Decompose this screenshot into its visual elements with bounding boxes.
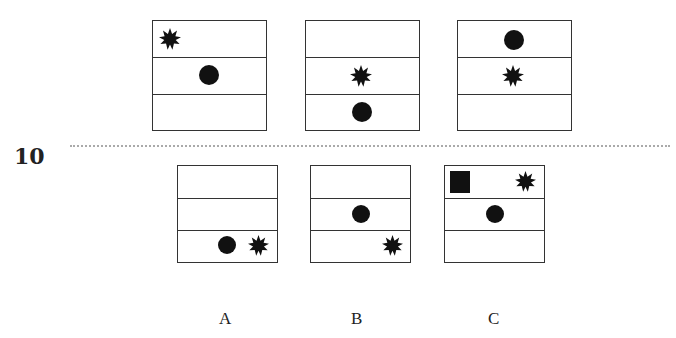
circle-icon [199, 65, 219, 85]
row-divider [306, 94, 419, 95]
row-divider [311, 198, 410, 199]
sequence-box-1 [152, 20, 267, 131]
circle-icon [504, 30, 524, 50]
row-divider [458, 57, 571, 58]
row-divider [445, 198, 544, 199]
sequence-box-2 [305, 20, 420, 131]
star-icon [515, 171, 536, 192]
option-box-a[interactable] [177, 165, 278, 263]
dotted-separator [70, 145, 670, 147]
row-divider [178, 198, 277, 199]
row-divider [458, 94, 571, 95]
option-box-b[interactable] [310, 165, 411, 263]
star-icon [382, 235, 403, 256]
option-label-a: A [219, 309, 231, 329]
circle-icon [352, 102, 372, 122]
square-icon [450, 171, 470, 193]
row-divider [306, 57, 419, 58]
row-divider [445, 230, 544, 231]
star-icon [248, 235, 269, 256]
option-label-c: C [488, 309, 499, 329]
circle-icon [486, 205, 504, 223]
option-label-b: B [351, 309, 362, 329]
sequence-box-3 [457, 20, 572, 131]
star-icon [159, 28, 181, 50]
row-divider [311, 230, 410, 231]
row-divider [178, 230, 277, 231]
option-box-c[interactable] [444, 165, 545, 263]
row-divider [153, 57, 266, 58]
circle-icon [218, 236, 236, 254]
row-divider [153, 94, 266, 95]
circle-icon [352, 205, 370, 223]
star-icon [502, 65, 524, 87]
question-number: 10 [14, 143, 45, 169]
star-icon [350, 65, 372, 87]
